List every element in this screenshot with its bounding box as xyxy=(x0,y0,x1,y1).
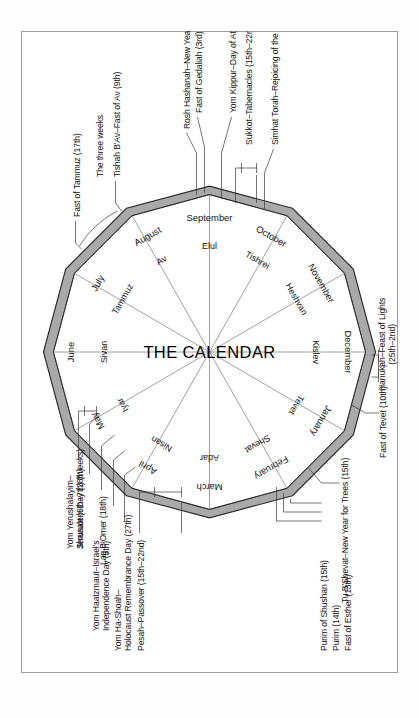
annotation-shavuot: Shavuot (6th–7th) (Weeks) xyxy=(74,449,84,549)
month-june: June xyxy=(65,342,76,362)
annotation-lag-bomer: Lag B'Omer (18th) xyxy=(97,496,107,565)
rotated-figure-wrapper: June July August September October Novem… xyxy=(21,31,398,673)
annotation-fast-of-gedaliah: Fast of Gedaliah (3rd) xyxy=(193,32,203,113)
annotation-fast-of-tammuz: Fast of Tammuz (17th) xyxy=(71,133,81,217)
hebrew-month-elul: Elul xyxy=(202,241,217,251)
annotation-yom-yerushalayim-line1: Yom Yerushalayim– xyxy=(65,469,75,549)
annotation-simhat-torah: Simhat Torah–Rejoicing of the Law (23rd) xyxy=(269,31,279,145)
hebrew-month-kislev: Kislev xyxy=(310,340,320,364)
page-title: THE CALENDAR xyxy=(143,343,275,362)
annotation-fast-of-tevet: Fast of Tevet (10th) xyxy=(377,386,387,458)
hebrew-month-sivan: Sivan xyxy=(98,341,108,363)
annotation-three-weeks: The three weeks xyxy=(94,115,104,177)
annotation-yom-hashoah-line2: Holocaust Remembrance Day (27th) xyxy=(123,515,133,651)
annotation-yom-hashoah: Yom Ha-Shoah– Holocaust Remembrance Day … xyxy=(113,515,132,651)
annotation-yom-kippur: Yom Kippur–Day of Atonement (10th) xyxy=(227,31,237,113)
month-march: March xyxy=(196,482,222,493)
hebrew-month-adar: Adar xyxy=(200,453,219,463)
annotation-pesah: Pesah–Passover (15th–22nd) xyxy=(135,540,145,651)
calendar-figure: June July August September October Novem… xyxy=(21,31,398,673)
annotation-rosh-hashanah: Rosh Hashanah–New Year (1st–2nd) xyxy=(181,31,191,129)
figure-page: June July August September October Novem… xyxy=(0,0,419,718)
annotation-tu-bshevat: Tu B'Shevat–New Year for Trees (15th) xyxy=(339,458,349,603)
annotation-tishah-bav: Tishah B'Av–Fast of Av (9th) xyxy=(111,72,121,177)
annotation-purim: Purim (14th) xyxy=(330,605,340,651)
annotation-purim-of-shushan: Purim of Shushan (15th) xyxy=(318,560,328,651)
month-september: September xyxy=(186,212,232,223)
month-december: December xyxy=(343,330,354,373)
annotation-hanukah-line2: (25th–2nd) xyxy=(387,298,397,391)
annotation-hanukah: Hanukah–Feast of Lights (25th–2nd) xyxy=(377,298,396,391)
annotation-hanukah-line1: Hanukah–Feast of Lights xyxy=(377,298,387,391)
annotation-sukkot: Sukkot–Tabernacles (15th–22nd) xyxy=(243,31,253,145)
annotation-yom-hashoah-line1: Yom Ha-Shoah– xyxy=(113,515,123,651)
